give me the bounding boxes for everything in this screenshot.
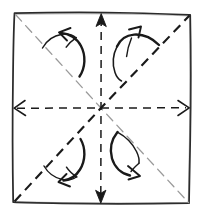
crease-pattern-canvas: Origami square base crease pattern with … <box>0 0 202 216</box>
arrowhead-right-icon <box>178 101 189 116</box>
fold-arrow-bottom-left-stem <box>67 167 77 177</box>
fold-arrow-top-right-stem <box>127 38 132 57</box>
fold-arrow-top-left <box>43 28 85 77</box>
fold-arrow-top-left-stem <box>66 38 76 48</box>
fold-arrow-bottom-right <box>111 132 140 180</box>
origami-diagram: Origami square base crease pattern with … <box>0 0 202 216</box>
fold-arrow-top-right-inner-curve <box>113 46 121 81</box>
